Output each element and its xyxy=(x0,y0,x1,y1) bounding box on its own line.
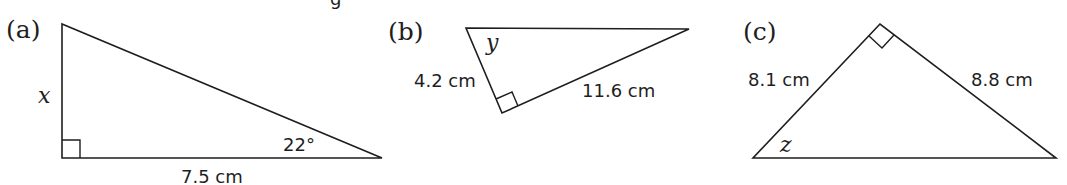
right-angle-marker-c xyxy=(869,35,894,48)
triangle-a xyxy=(62,24,382,158)
base-length-label: 7.5 cm xyxy=(181,166,243,185)
panel-c-label: (c) xyxy=(743,17,777,46)
panel-b-label: (b) xyxy=(388,17,424,46)
panel-a-label: (a) xyxy=(6,15,40,44)
angle-22-label: 22° xyxy=(283,134,315,155)
panel-c: (c) 8.1 cm 8.8 cm z xyxy=(743,17,1056,158)
side-x-label: x xyxy=(38,83,51,108)
right-angle-marker-a xyxy=(62,140,80,158)
triangle-c xyxy=(753,24,1056,158)
panel-a: (a) x 22° 7.5 cm xyxy=(6,15,382,185)
right-side-label: 8.8 cm xyxy=(971,69,1033,90)
right-triangles-figure: g (a) x 22° 7.5 cm (b) y 4.2 cm 11.6 cm … xyxy=(0,0,1067,185)
right-angle-marker-b xyxy=(496,92,518,106)
short-side-label: 4.2 cm xyxy=(414,70,476,91)
long-side-label: 11.6 cm xyxy=(582,80,655,101)
angle-y-label: y xyxy=(485,30,499,55)
panel-b: (b) y 4.2 cm 11.6 cm xyxy=(388,17,689,113)
left-side-label: 8.1 cm xyxy=(748,69,810,90)
angle-z-label: z xyxy=(779,132,792,157)
header-fragment: g xyxy=(330,0,341,9)
triangle-b xyxy=(466,28,689,113)
